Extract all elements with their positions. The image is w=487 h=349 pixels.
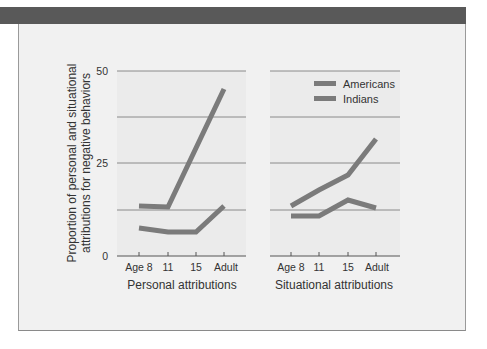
legend-swatch-americans — [314, 81, 336, 86]
x-axis-title-personal: Personal attributions — [127, 278, 236, 292]
x-label-age8-situational: Age 8 — [277, 261, 305, 273]
x-label-adult-personal: Adult — [214, 261, 238, 273]
x-label-11-situational: 11 — [314, 261, 325, 273]
y-axis-title-line1: Proportion of personal and situational — [65, 64, 79, 263]
x-label-15-personal: 15 — [190, 261, 202, 273]
legend-swatch-indians — [314, 96, 336, 101]
x-axis-title-situational: Situational attributions — [275, 278, 393, 292]
x-label-15-situational: 15 — [342, 261, 354, 273]
legend-label-indians: Indians — [343, 93, 379, 105]
y-tick-50: 50 — [96, 65, 108, 77]
x-label-adult-situational: Adult — [365, 261, 389, 273]
chart-svg: Proportion of personal and situational a… — [0, 0, 487, 349]
y-tick-0: 0 — [102, 250, 108, 262]
x-label-age8-personal: Age 8 — [125, 261, 153, 273]
y-tick-25: 25 — [96, 157, 108, 169]
y-axis-title-line2: attributions for negative behaviors — [79, 73, 93, 253]
x-label-11-personal: 11 — [163, 261, 174, 273]
legend-label-americans: Americans — [343, 78, 395, 90]
